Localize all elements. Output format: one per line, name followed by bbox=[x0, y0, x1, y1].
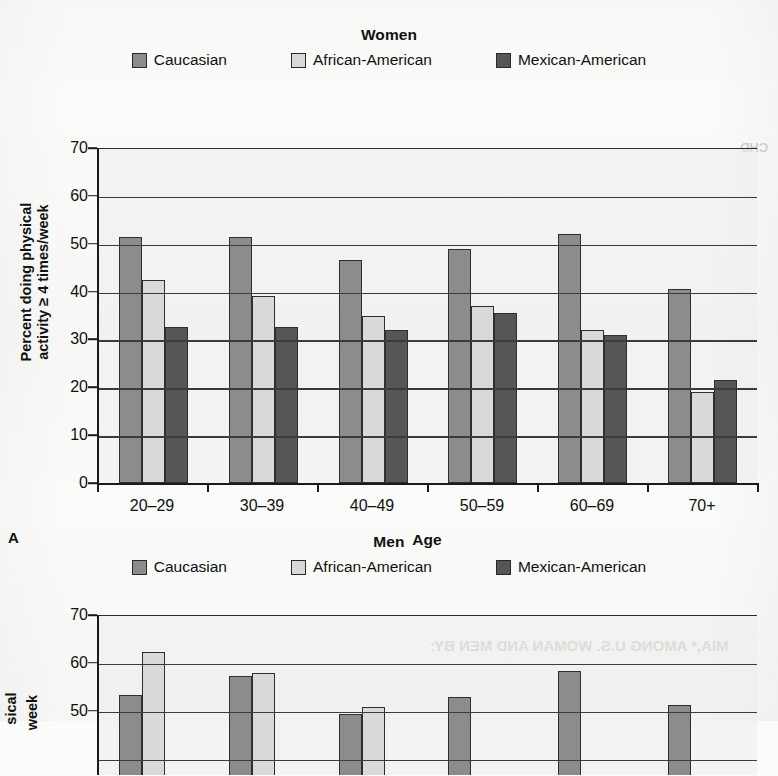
y-axis-tick-mark bbox=[88, 482, 97, 484]
legend-swatch-icon bbox=[291, 53, 306, 68]
bar-group bbox=[209, 616, 319, 775]
legend-item-mexican-american: Mexican-American bbox=[496, 51, 646, 69]
gridline bbox=[99, 197, 757, 199]
x-axis-tick-mark bbox=[97, 483, 99, 492]
x-axis-labels-women: 20–2930–3940–4950–5960–6970+ bbox=[97, 497, 757, 515]
x-axis-tick-mark bbox=[537, 483, 539, 492]
gridline bbox=[99, 712, 757, 714]
bar-group bbox=[538, 149, 648, 483]
bar bbox=[119, 237, 142, 483]
y-axis-tick-mark bbox=[88, 339, 97, 341]
bar bbox=[229, 237, 252, 483]
gridline bbox=[99, 340, 757, 342]
y-axis-tick-label: 40 bbox=[70, 283, 88, 301]
legend-label-mexican-american: Mexican-American bbox=[518, 51, 646, 69]
legend-swatch-icon bbox=[291, 560, 306, 575]
y-axis-tick-mark bbox=[88, 147, 97, 149]
x-axis-tick-label: 60–69 bbox=[537, 497, 647, 515]
bar bbox=[448, 249, 471, 484]
legend-label-mexican-american: Mexican-American bbox=[518, 558, 646, 576]
gridline bbox=[99, 293, 757, 295]
bar bbox=[581, 330, 604, 483]
bar bbox=[668, 705, 691, 775]
y-axis-tick-mark bbox=[88, 291, 97, 293]
panel-title-men: Men bbox=[0, 533, 778, 551]
bar-group bbox=[318, 616, 428, 775]
bar bbox=[142, 652, 165, 775]
bar bbox=[668, 289, 691, 483]
x-axis-tick-label: 50–59 bbox=[427, 497, 537, 515]
y-axis-tick-mark bbox=[88, 710, 97, 712]
bar bbox=[142, 280, 165, 483]
x-axis-tick-label: 20–29 bbox=[97, 497, 207, 515]
legend-item-caucasian: Caucasian bbox=[132, 51, 227, 69]
legend-swatch-icon bbox=[132, 560, 147, 575]
x-axis-tick-mark bbox=[757, 483, 759, 492]
gridline bbox=[99, 388, 757, 390]
plot-frame-men bbox=[97, 615, 757, 775]
y-axis-tick-label: 60 bbox=[70, 187, 88, 205]
legend-swatch-icon bbox=[496, 53, 511, 68]
y-axis-tick-mark bbox=[88, 386, 97, 388]
legend-item-african-american: African-American bbox=[291, 51, 432, 69]
y-axis-tick-label: 60 bbox=[70, 654, 88, 672]
y-axis-ticks-women: 706050403020100 bbox=[0, 69, 88, 489]
y-axis-tick-label: 70 bbox=[70, 606, 88, 624]
plot-area-men: sical week 706050 bbox=[0, 576, 778, 776]
plot-frame-women bbox=[97, 148, 757, 483]
legend-item-caucasian: Caucasian bbox=[132, 558, 227, 576]
x-axis-women bbox=[97, 483, 759, 485]
plot-area-women: Percent doing physical activity ≥ 4 time… bbox=[0, 69, 778, 489]
y-axis-tick-label: 50 bbox=[70, 702, 88, 720]
panel-title-women: Women bbox=[0, 26, 778, 44]
bar bbox=[385, 330, 408, 483]
chart-panel-women: Women Caucasian African-American Mexican… bbox=[0, 26, 778, 489]
legend-women: Caucasian African-American Mexican-Ameri… bbox=[0, 51, 778, 69]
x-axis-tick-mark bbox=[647, 483, 649, 492]
legend-item-african-american: African-American bbox=[291, 558, 432, 576]
y-axis-tick-mark bbox=[88, 662, 97, 664]
bar-group bbox=[318, 149, 428, 483]
bar bbox=[604, 335, 627, 483]
bar bbox=[494, 313, 517, 483]
legend-label-african-american: African-American bbox=[313, 51, 432, 69]
gridline bbox=[99, 245, 757, 247]
bar bbox=[558, 234, 581, 483]
bar-group bbox=[428, 616, 538, 775]
x-axis-tick-mark bbox=[427, 483, 429, 492]
legend-label-african-american: African-American bbox=[313, 558, 432, 576]
x-axis-tick-label: 30–39 bbox=[207, 497, 317, 515]
legend-label-caucasian: Caucasian bbox=[154, 558, 227, 576]
bar-group bbox=[209, 149, 319, 483]
y-axis-tick-label: 20 bbox=[70, 378, 88, 396]
legend-swatch-icon bbox=[132, 53, 147, 68]
bar bbox=[339, 714, 362, 775]
bar bbox=[119, 695, 142, 775]
bar bbox=[471, 306, 494, 483]
bar bbox=[165, 327, 188, 483]
bar bbox=[362, 707, 385, 775]
y-axis-tick-mark bbox=[88, 614, 97, 616]
bar-group bbox=[99, 149, 209, 483]
chart-panel-men: Men Caucasian African-American Mexican-A… bbox=[0, 533, 778, 776]
legend-item-mexican-american: Mexican-American bbox=[496, 558, 646, 576]
x-axis-tick-mark bbox=[207, 483, 209, 492]
y-axis-tick-label: 10 bbox=[70, 426, 88, 444]
y-axis-tick-label: 0 bbox=[79, 474, 88, 492]
y-axis-tick-mark bbox=[88, 243, 97, 245]
y-axis-ticks-men: 706050 bbox=[0, 576, 88, 776]
bar-group bbox=[428, 149, 538, 483]
legend-swatch-icon bbox=[496, 560, 511, 575]
bar-group bbox=[647, 149, 757, 483]
bar bbox=[714, 380, 737, 483]
legend-label-caucasian: Caucasian bbox=[154, 51, 227, 69]
bar-group bbox=[647, 616, 757, 775]
bar-group bbox=[538, 616, 648, 775]
bar bbox=[275, 327, 298, 483]
gridline bbox=[99, 664, 757, 666]
y-axis-tick-mark bbox=[88, 195, 97, 197]
legend-men: Caucasian African-American Mexican-Ameri… bbox=[0, 558, 778, 576]
x-axis-tick-label: 40–49 bbox=[317, 497, 427, 515]
gridline bbox=[99, 760, 757, 762]
y-axis-tick-label: 30 bbox=[70, 330, 88, 348]
